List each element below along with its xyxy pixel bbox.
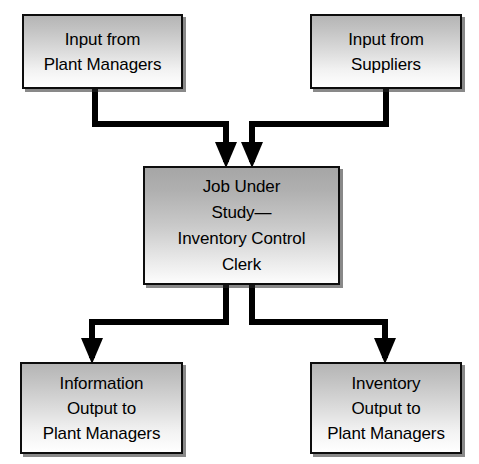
node-job-under-study-label: Job Under Study— Inventory Control Clerk (174, 174, 310, 278)
edge-plant-managers-to-job-line (95, 89, 226, 162)
node-input-plant-managers[interactable]: Input from Plant Managers (22, 14, 183, 89)
node-input-suppliers[interactable]: Input from Suppliers (310, 14, 462, 89)
node-output-information-label: Information Output to Plant Managers (39, 371, 165, 446)
edge-job-to-inventory-line (252, 285, 385, 358)
arrowhead-to-inventory (374, 338, 396, 364)
arrowhead-to-job-right (241, 142, 263, 168)
arrowhead-to-information (81, 338, 103, 364)
arrowhead-to-job-left (215, 142, 237, 168)
node-job-under-study[interactable]: Job Under Study— Inventory Control Clerk (143, 166, 340, 285)
node-output-information[interactable]: Information Output to Plant Managers (20, 362, 183, 454)
node-input-plant-managers-label: Input from Plant Managers (40, 27, 166, 77)
flow-diagram: Input from Plant Managers Input from Sup… (0, 0, 479, 464)
node-output-inventory[interactable]: Inventory Output to Plant Managers (310, 362, 462, 454)
edge-suppliers-to-job-line (252, 89, 386, 162)
node-output-inventory-label: Inventory Output to Plant Managers (323, 371, 449, 446)
edge-job-to-information-line (92, 285, 226, 358)
node-input-suppliers-label: Input from Suppliers (344, 27, 428, 77)
